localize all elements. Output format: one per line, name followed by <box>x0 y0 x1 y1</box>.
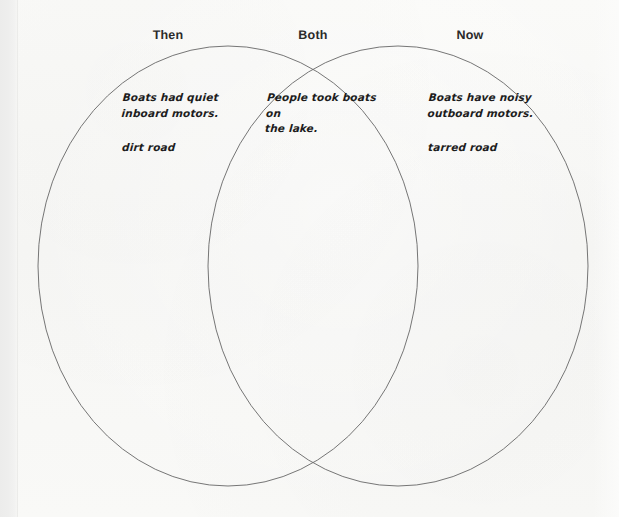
venn-heading-both: Both <box>298 28 327 42</box>
then-entry-2[interactable]: dirt road <box>121 141 252 157</box>
venn-heading-now: Now <box>457 28 484 42</box>
worksheet-page: Then Both Now Boats had quiet inboard mo… <box>0 0 619 517</box>
now-entry-1[interactable]: Boats have noisy outboard motors. <box>427 91 564 122</box>
venn-diagram <box>0 0 619 517</box>
venn-heading-then: Then <box>153 28 184 42</box>
then-entry-1[interactable]: Boats had quiet inboard motors. <box>121 91 253 122</box>
both-entry-1[interactable]: People took boats on the lake. <box>264 91 389 138</box>
now-entry-2[interactable]: tarred road <box>427 141 563 157</box>
